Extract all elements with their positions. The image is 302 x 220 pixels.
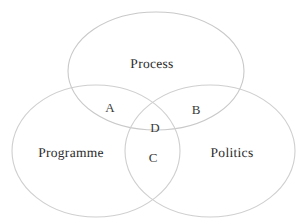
venn-diagram-figure: · · Process Programme Politics A B D C [0, 0, 302, 220]
ellipse-politics [125, 85, 295, 217]
ellipse-process [68, 12, 244, 130]
ellipse-programme [12, 85, 180, 217]
venn-circles-svg [0, 0, 302, 220]
